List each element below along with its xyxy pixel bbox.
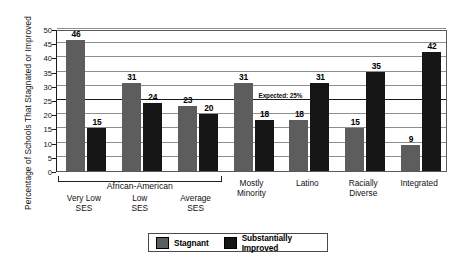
bar-stagnant — [401, 145, 420, 171]
bar-substantially-improved — [199, 114, 218, 171]
chart-legend: Stagnant Substantially Improved — [148, 233, 328, 252]
bar-value-label: 31 — [305, 72, 335, 82]
y-tick-label: 45 — [30, 40, 52, 49]
y-tick-label: 35 — [30, 68, 52, 77]
bar-substantially-improved — [255, 120, 274, 171]
bar-substantially-improved — [422, 52, 441, 171]
bar-value-label: 20 — [194, 103, 224, 113]
legend-swatch-icon — [156, 237, 169, 249]
bar-group: 1831 — [289, 31, 329, 171]
group-bracket-label: African-American — [58, 181, 222, 191]
bar-stagnant — [66, 40, 85, 171]
y-tick-label: 10 — [30, 139, 52, 148]
y-tick-label: 5 — [30, 153, 52, 162]
bar-value-label: 15 — [82, 117, 112, 127]
bar-group: 3124 — [122, 31, 162, 171]
expected-line-label: Expected: 25% — [258, 92, 304, 99]
bar-group: 3118 — [234, 31, 274, 171]
y-tick-mark — [52, 172, 56, 173]
bar-value-label: 35 — [361, 61, 391, 71]
bar-substantially-improved — [310, 83, 329, 171]
bar-value-label: 42 — [417, 41, 447, 51]
legend-swatch-icon — [224, 237, 237, 249]
legend-label: Substantially Improved — [242, 233, 327, 253]
bar-substantially-improved — [87, 128, 106, 171]
x-axis-label: Integrated — [383, 178, 455, 188]
bar-group: 1535 — [345, 31, 385, 171]
legend-label: Stagnant — [174, 238, 209, 248]
bar-substantially-improved — [366, 72, 385, 171]
bar-stagnant — [345, 128, 364, 171]
bar-stagnant — [178, 106, 197, 171]
bar-substantially-improved — [143, 103, 162, 171]
bar-value-label: 31 — [229, 72, 259, 82]
y-tick-label: 20 — [30, 111, 52, 120]
bar-group: 4615 — [66, 31, 106, 171]
y-tick-label: 40 — [30, 54, 52, 63]
y-tick-label: 0 — [30, 168, 52, 177]
y-tick-label: 15 — [30, 125, 52, 134]
legend-item-substantially-improved: Substantially Improved — [224, 233, 327, 253]
legend-item-stagnant: Stagnant — [156, 237, 209, 249]
bar-stagnant — [234, 83, 253, 171]
bar-value-label: 18 — [250, 109, 280, 119]
gridline — [57, 28, 446, 29]
y-tick-label: 30 — [30, 82, 52, 91]
bar-group: 942 — [401, 31, 441, 171]
bar-value-label: 46 — [61, 29, 91, 39]
plot-area: 461531242320311818311535942 Expected: 25… — [56, 30, 447, 172]
bar-value-label: 31 — [117, 72, 147, 82]
bar-stagnant — [289, 120, 308, 171]
y-tick-label: 25 — [30, 97, 52, 106]
y-tick-label: 50 — [30, 26, 52, 35]
chart-figure: Percentage of Schools That Stagnated or … — [0, 0, 472, 264]
bar-value-label: 24 — [138, 92, 168, 102]
bar-group: 2320 — [178, 31, 218, 171]
